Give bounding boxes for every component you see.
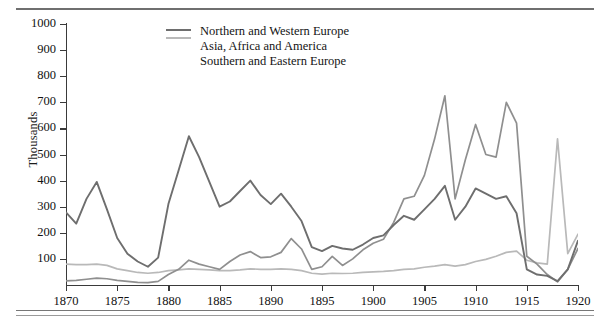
immigration-line-chart: Thousands 100200300400500600700800900100… [0,0,610,327]
x-axis-tick [424,285,425,291]
y-axis-tick-label: 200 [10,226,56,239]
legend-entry-3: Southern and Eastern Europe [200,54,349,69]
y-axis-tick-label: 300 [10,200,56,213]
x-axis-tick [66,285,67,291]
y-axis-tick [60,50,66,51]
legend-entry-2: Asia, Africa and America [200,39,349,54]
y-axis-tick-label: 600 [10,121,56,134]
legend-label-group: Northern and Western EuropeAsia, Africa … [200,24,349,70]
x-axis-tick-label: 1920 [555,294,601,309]
y-axis-tick [60,207,66,208]
x-axis-tick-label: 1885 [197,294,243,309]
x-axis-tick [117,285,118,291]
y-axis-tick-label: 700 [10,95,56,108]
y-axis-tick [60,24,66,25]
x-axis-tick-label: 1895 [299,294,345,309]
y-axis-tick [60,155,66,156]
x-axis-tick [373,285,374,291]
x-axis-tick [322,285,323,291]
y-axis-tick-label: 400 [10,174,56,187]
legend-entry-1: Northern and Western Europe [200,24,349,39]
x-axis-tick-label: 1910 [453,294,499,309]
x-axis-tick-label: 1875 [94,294,140,309]
chart-legend: Northern and Western EuropeAsia, Africa … [166,24,349,70]
y-axis-tick-label: 100 [10,252,56,265]
x-axis-tick [168,285,169,291]
y-axis-tick-label: 1000 [10,17,56,30]
x-axis-tick-label: 1905 [401,294,447,309]
y-axis-tick [60,128,66,129]
x-axis-tick [578,285,579,291]
y-axis-tick [60,233,66,234]
bottom-divider-rule-1 [16,310,594,311]
x-axis-tick-label: 1870 [43,294,89,309]
x-axis-tick [476,285,477,291]
y-axis-tick-label: 900 [10,43,56,56]
series-line-2 [66,139,578,274]
y-axis-tick [60,76,66,77]
series-line-1 [66,136,578,281]
x-axis-tick-label: 1915 [504,294,550,309]
x-axis-tick [220,285,221,291]
x-axis-tick-label: 1900 [350,294,396,309]
legend-swatch-1 [166,29,191,31]
y-axis-tick [60,259,66,260]
legend-swatch-2 [166,37,191,39]
x-axis-tick [271,285,272,291]
y-axis-tick-label: 800 [10,69,56,82]
y-axis-tick [60,102,66,103]
top-divider-rule [16,8,594,10]
y-axis-tick-label: 500 [10,148,56,161]
bottom-divider-rule-2 [16,315,594,316]
x-axis-tick-label: 1880 [145,294,191,309]
x-axis-tick [527,285,528,291]
y-axis-tick [60,181,66,182]
x-axis-tick-label: 1890 [248,294,294,309]
